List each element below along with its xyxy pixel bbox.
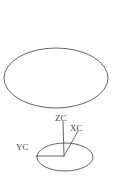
axis-line-zc [63, 121, 64, 156]
axis-line-xc [64, 131, 78, 156]
large-ellipse [4, 48, 108, 108]
diagram-svg [0, 0, 114, 181]
small-ellipse [37, 143, 93, 171]
axis-label-zc: ZC [55, 114, 67, 123]
axis-label-xc: XC [70, 124, 83, 133]
axis-label-yc: YC [16, 143, 29, 152]
figure-canvas: ZC XC YC [0, 0, 114, 181]
